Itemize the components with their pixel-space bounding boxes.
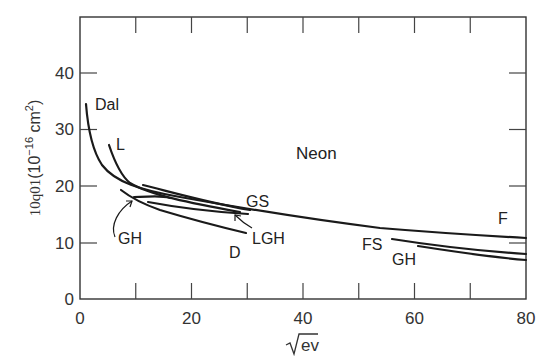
curve-labels: Neon Dal L GS GH D LGH FS GH F	[95, 96, 508, 268]
y-tick-40: 40	[55, 64, 74, 83]
x-tick-labels: 0 20 40 60 80	[75, 309, 535, 328]
y-tick-30: 30	[55, 120, 74, 139]
y-tick-0: 0	[65, 290, 74, 309]
d-label: D	[229, 244, 241, 261]
chart: 0 10 20 30 40 0 20 40 60 80 ev 10q01(10−…	[0, 0, 548, 364]
x-tick-60: 60	[405, 309, 424, 328]
neon-label: Neon	[296, 144, 337, 163]
x-tick-20: 20	[182, 309, 201, 328]
y-tick-labels: 0 10 20 30 40	[55, 64, 74, 309]
x-axis-title: ev	[286, 334, 319, 355]
y-axis-title: 10q01(10−16 cm2)	[23, 100, 43, 217]
curve-gh-stub	[134, 196, 170, 198]
x-tick-40: 40	[294, 309, 313, 328]
x-tick-0: 0	[75, 309, 84, 328]
curve-dal	[86, 104, 526, 238]
dal-label: Dal	[95, 96, 119, 113]
y-tick-20: 20	[55, 177, 74, 196]
fs-label: FS	[362, 236, 382, 253]
curve-l	[109, 145, 240, 212]
arrow-lgh	[235, 215, 252, 228]
gh-low-label: GH	[118, 230, 142, 247]
y-tick-10: 10	[55, 234, 74, 253]
f-label: F	[498, 210, 508, 227]
y-axis-title-main: 10q01	[27, 179, 43, 217]
svg-text:10q01(10−16 cm2): 10q01(10−16 cm2)	[23, 100, 43, 217]
l-label: L	[116, 136, 125, 153]
curves	[86, 104, 526, 260]
x-tick-80: 80	[517, 309, 536, 328]
lgh-label: LGH	[252, 230, 285, 247]
gh-high-label: GH	[392, 251, 416, 268]
gs-label: GS	[246, 193, 269, 210]
x-axis-title-text: ev	[301, 336, 319, 355]
